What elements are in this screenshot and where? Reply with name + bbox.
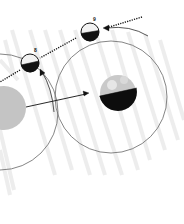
- moon-9: [81, 23, 99, 41]
- earth-right: [99, 75, 137, 111]
- sun-direction-lines: [0, 17, 142, 82]
- moon-label-9: 9: [93, 17, 96, 22]
- left-earth: [0, 86, 26, 130]
- diagram-canvas: [0, 0, 184, 224]
- moon-label-8: 8: [34, 48, 37, 53]
- orbit-diagram: 9 8: [0, 0, 184, 224]
- moon-8: [21, 54, 39, 72]
